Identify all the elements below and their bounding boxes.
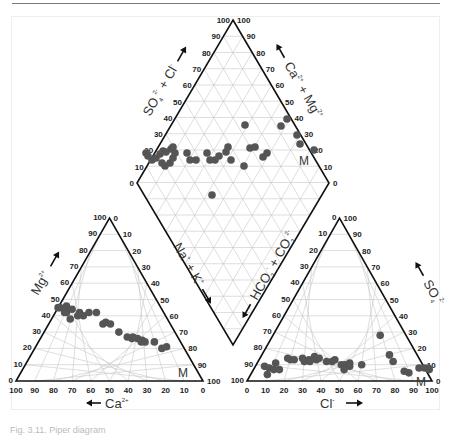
- svg-text:60: 60: [86, 386, 95, 395]
- svg-text:70: 70: [371, 263, 380, 272]
- svg-text:0: 0: [245, 386, 250, 395]
- figure-caption: Fig. 3.11. Piper diagram: [10, 425, 105, 435]
- svg-text:70: 70: [266, 65, 275, 74]
- svg-text:0: 0: [332, 213, 337, 222]
- svg-text:90: 90: [198, 361, 207, 370]
- svg-text:20: 20: [280, 386, 289, 395]
- so4-axis-label: SO42-: [409, 258, 448, 309]
- svg-text:80: 80: [254, 343, 263, 352]
- svg-text:10: 10: [323, 163, 332, 172]
- svg-text:70: 70: [179, 328, 188, 337]
- svg-text:100: 100: [9, 386, 23, 395]
- svg-text:70: 70: [68, 386, 77, 395]
- svg-text:50: 50: [335, 386, 344, 395]
- svg-text:30: 30: [142, 263, 151, 272]
- svg-text:80: 80: [391, 386, 400, 395]
- arrow-up-icon: [279, 48, 285, 58]
- anion-m-label: M: [416, 375, 426, 389]
- svg-text:60: 60: [272, 311, 281, 320]
- svg-text:30: 30: [300, 262, 309, 271]
- arrow-up-icon: [418, 266, 424, 276]
- svg-text:30: 30: [298, 386, 307, 395]
- svg-text:10: 10: [13, 360, 22, 369]
- mg-axis-label: Mg2+: [28, 248, 65, 298]
- svg-text:40: 40: [399, 312, 408, 321]
- arrow-up-icon: [178, 51, 184, 61]
- svg-text:70: 70: [263, 327, 272, 336]
- svg-text:10: 10: [318, 229, 327, 238]
- arrowhead-icon: [273, 42, 282, 51]
- arrowhead-left-icon: [86, 400, 92, 407]
- svg-text:Ca2+: Ca2+: [105, 396, 129, 411]
- svg-text:60: 60: [275, 81, 284, 90]
- svg-text:40: 40: [317, 386, 326, 395]
- svg-text:100: 100: [425, 386, 439, 395]
- svg-text:20: 20: [161, 386, 170, 395]
- tick-labels: 1009080706050403020100010203040506070809…: [9, 16, 441, 395]
- svg-text:30: 30: [142, 386, 151, 395]
- svg-text:90: 90: [353, 230, 362, 239]
- svg-text:30: 30: [154, 130, 163, 139]
- data-points: [54, 115, 433, 378]
- svg-text:80: 80: [256, 49, 265, 58]
- svg-text:20: 20: [309, 246, 318, 255]
- svg-text:80: 80: [362, 247, 371, 256]
- arrowhead-icon: [180, 45, 189, 54]
- svg-text:50: 50: [51, 295, 60, 304]
- cation-m-label: M: [178, 366, 188, 380]
- svg-text:20: 20: [23, 343, 32, 352]
- svg-text:100: 100: [231, 376, 245, 385]
- svg-text:HCO3- + CO32-: HCO3- + CO32-: [247, 228, 299, 303]
- svg-text:50: 50: [285, 98, 294, 107]
- svg-text:SO42-: SO42-: [420, 277, 448, 309]
- svg-text:30: 30: [32, 327, 41, 336]
- svg-text:Mg2+: Mg2+: [28, 268, 54, 297]
- svg-text:10: 10: [135, 163, 144, 172]
- svg-text:90: 90: [247, 32, 256, 41]
- svg-text:50: 50: [390, 296, 399, 305]
- svg-text:80: 80: [202, 49, 211, 58]
- hco3-axis-label: HCO3- + CO32-: [236, 228, 299, 322]
- svg-text:Cl-: Cl-: [320, 396, 335, 411]
- nak-axis-label: Na+ + K+: [170, 240, 217, 307]
- svg-text:90: 90: [211, 32, 220, 41]
- ca-axis-label: Ca2+: [86, 396, 129, 411]
- arrowhead-right-icon: [357, 400, 363, 407]
- svg-text:20: 20: [418, 344, 427, 353]
- svg-text:80: 80: [188, 344, 197, 353]
- svg-text:50: 50: [160, 296, 169, 305]
- svg-text:90: 90: [30, 386, 39, 395]
- svg-text:50: 50: [281, 295, 290, 304]
- cl-axis-label: Cl-: [320, 396, 363, 411]
- svg-text:30: 30: [304, 130, 313, 139]
- svg-text:0: 0: [436, 377, 441, 386]
- svg-text:0: 0: [201, 386, 206, 395]
- svg-text:60: 60: [170, 312, 179, 321]
- svg-text:30: 30: [408, 328, 417, 337]
- svg-text:40: 40: [163, 114, 172, 123]
- svg-text:20: 20: [132, 247, 141, 256]
- arrowhead-icon: [412, 260, 421, 269]
- svg-text:40: 40: [124, 386, 133, 395]
- svg-text:40: 40: [151, 279, 160, 288]
- svg-text:70: 70: [192, 65, 201, 74]
- svg-text:0: 0: [130, 179, 135, 188]
- svg-text:100: 100: [207, 377, 221, 386]
- svg-text:100: 100: [237, 16, 251, 25]
- svg-text:0: 0: [333, 179, 338, 188]
- svg-text:40: 40: [41, 311, 50, 320]
- svg-text:50: 50: [105, 386, 114, 395]
- svg-text:70: 70: [70, 262, 79, 271]
- svg-text:0: 0: [9, 376, 14, 385]
- svg-text:80: 80: [49, 386, 58, 395]
- svg-text:0: 0: [114, 214, 119, 223]
- svg-text:40: 40: [295, 114, 304, 123]
- svg-text:100: 100: [217, 16, 231, 25]
- svg-text:10: 10: [261, 386, 270, 395]
- svg-text:90: 90: [244, 360, 253, 369]
- svg-text:60: 60: [60, 278, 69, 287]
- diamond-m-label: M: [299, 154, 309, 168]
- svg-text:50: 50: [173, 98, 182, 107]
- arrow-up-icon: [51, 256, 57, 266]
